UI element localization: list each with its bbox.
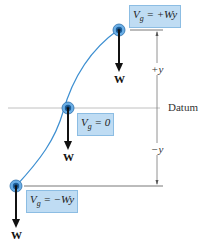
plus-y-label: +y: [150, 63, 164, 75]
particle-top: [113, 24, 125, 72]
particle-middle: [62, 102, 74, 150]
datum-label: Datum: [168, 101, 198, 113]
weight-arrow-icon: [64, 141, 72, 150]
particle-bottom: [10, 180, 22, 228]
eq-symbol: V: [30, 193, 37, 205]
weight-label-bottom: W: [11, 229, 22, 241]
dimension-arrow-up-icon: [156, 31, 159, 36]
weight-label-top: W: [114, 73, 125, 85]
eq-symbol: V: [81, 116, 88, 128]
dimension-arrow-down-icon: [156, 180, 159, 185]
eq-symbol: V: [133, 8, 140, 20]
equation-box-middle: Vg = 0: [77, 113, 114, 136]
equation-box-bottom: Vg = −Wy: [26, 190, 78, 213]
weight-label-middle: W: [63, 151, 74, 163]
eq-value: = 0: [92, 116, 110, 128]
weight-arrow-icon: [12, 219, 20, 228]
weight-arrow-icon: [115, 63, 123, 72]
eq-value: = +Wy: [144, 8, 177, 20]
minus-y-label: −y: [150, 143, 164, 155]
equation-box-top: Vg = +Wy: [129, 5, 181, 28]
eq-value: = −Wy: [41, 193, 74, 205]
